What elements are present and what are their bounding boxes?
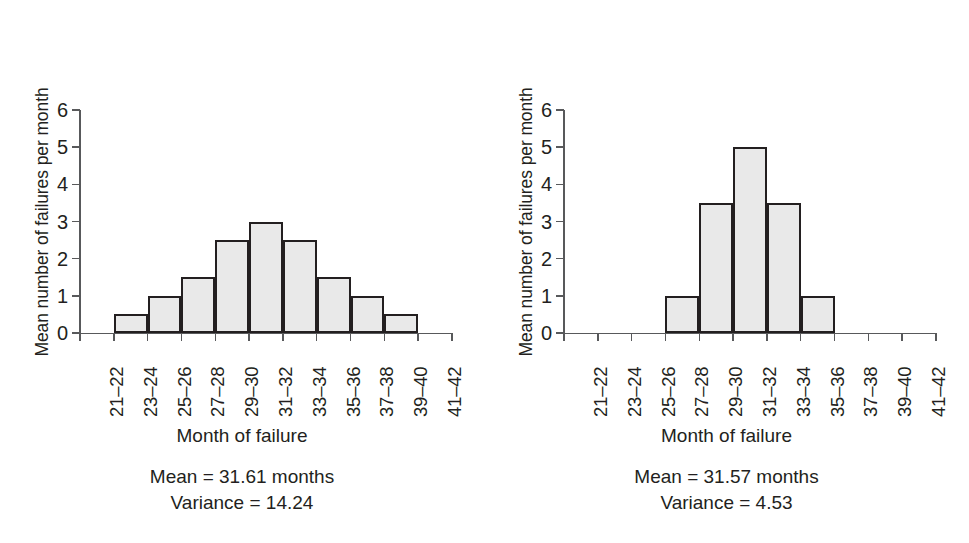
x-label-text: 27–28 bbox=[208, 367, 228, 417]
bar-31-32-right bbox=[733, 147, 767, 333]
y-axis-title-right: Mean number of failures per month bbox=[512, 7, 540, 437]
caption-mean-left: Mean = 31.61 months bbox=[0, 464, 484, 490]
x-tick-5-right bbox=[732, 333, 734, 341]
x-tick-3-right bbox=[665, 333, 667, 341]
y-tick-label-6-left: 6 bbox=[57, 100, 68, 120]
y-tick-label-4-right: 4 bbox=[541, 174, 552, 194]
x-label-text: 23–24 bbox=[141, 367, 161, 417]
bar-29-30-left bbox=[215, 240, 249, 333]
bar-35-36-right bbox=[801, 296, 835, 333]
x-tick-7-left bbox=[316, 333, 318, 341]
y-tick-label-0-right: 0 bbox=[541, 323, 552, 343]
bar-23-24-left bbox=[114, 314, 148, 333]
y-tick-label-5-right: 5 bbox=[541, 137, 552, 157]
x-label-text: 35–36 bbox=[344, 367, 364, 417]
caption-right: Mean = 31.57 months Variance = 4.53 bbox=[484, 464, 969, 516]
x-label-text: 23–24 bbox=[625, 367, 645, 417]
bar-27-28-left bbox=[181, 277, 215, 333]
x-tick-5-left bbox=[248, 333, 250, 341]
y-tick-label-5-left: 5 bbox=[57, 137, 68, 157]
panel-right-histogram: Mean number of failures per month 21–222… bbox=[484, 0, 969, 543]
x-tick-2-right bbox=[631, 333, 633, 341]
x-tick-labels-left: 21–2223–2425–2627–2829–3031–3233–3435–36… bbox=[80, 333, 452, 419]
x-tick-10-right bbox=[901, 333, 903, 341]
bars-right bbox=[564, 110, 936, 333]
x-label-text: 21–22 bbox=[107, 367, 127, 417]
caption-left: Mean = 31.61 months Variance = 14.24 bbox=[0, 464, 484, 516]
panel-left-histogram: Mean number of failures per month 21–222… bbox=[0, 0, 484, 543]
y-tick-2-right bbox=[556, 258, 564, 260]
y-tick-6-right bbox=[556, 109, 564, 111]
bar-25-26-left bbox=[148, 296, 182, 333]
x-label-text: 37–38 bbox=[377, 367, 397, 417]
bar-37-38-left bbox=[351, 296, 385, 333]
caption-mean-right: Mean = 31.57 months bbox=[484, 464, 969, 490]
y-tick-2-left bbox=[72, 258, 80, 260]
x-label-text: 37–38 bbox=[861, 367, 881, 417]
y-tick-label-1-left: 1 bbox=[57, 286, 68, 306]
x-tick-2-left bbox=[147, 333, 149, 341]
x-tick-6-right bbox=[766, 333, 768, 341]
y-tick-1-left bbox=[72, 295, 80, 297]
figure-two-histograms: Mean number of failures per month 21–222… bbox=[0, 0, 969, 543]
bar-29-30-right bbox=[699, 203, 733, 333]
bar-35-36-left bbox=[317, 277, 351, 333]
x-tick-4-left bbox=[215, 333, 217, 341]
x-axis-title-left: Month of failure bbox=[0, 424, 484, 448]
y-tick-label-3-left: 3 bbox=[57, 212, 68, 232]
bar-27-28-right bbox=[665, 296, 699, 333]
x-tick-1-right bbox=[597, 333, 599, 341]
bar-33-34-right bbox=[767, 203, 801, 333]
y-tick-label-4-left: 4 bbox=[57, 174, 68, 194]
x-tick-10-left bbox=[417, 333, 419, 341]
x-label-text: 39–40 bbox=[895, 367, 915, 417]
y-tick-3-left bbox=[72, 221, 80, 223]
y-tick-label-3-right: 3 bbox=[541, 212, 552, 232]
x-tick-labels-right: 21–2223–2425–2627–2829–3031–3233–3435–36… bbox=[564, 333, 936, 419]
x-label-text: 39–40 bbox=[411, 367, 431, 417]
y-tick-label-0-left: 0 bbox=[57, 323, 68, 343]
x-label-text: 29–30 bbox=[242, 367, 262, 417]
y-tick-label-1-right: 1 bbox=[541, 286, 552, 306]
plot-area-left: 21–2223–2425–2627–2829–3031–3233–3435–36… bbox=[80, 110, 452, 333]
caption-variance-left: Variance = 14.24 bbox=[0, 490, 484, 516]
x-label-text: 31–32 bbox=[760, 367, 780, 417]
x-tick-3-left bbox=[181, 333, 183, 341]
y-tick-1-right bbox=[556, 295, 564, 297]
y-tick-4-right bbox=[556, 184, 564, 186]
x-tick-6-left bbox=[282, 333, 284, 341]
y-tick-label-2-right: 2 bbox=[541, 249, 552, 269]
x-label-text: 35–36 bbox=[828, 367, 848, 417]
y-tick-label-2-left: 2 bbox=[57, 249, 68, 269]
x-tick-11-right bbox=[935, 333, 937, 341]
x-label-text: 41–42 bbox=[929, 367, 949, 417]
y-tick-5-right bbox=[556, 146, 564, 148]
y-axis-title-left: Mean number of failures per month bbox=[28, 7, 56, 437]
x-label-text: 41–42 bbox=[445, 367, 465, 417]
x-label-text: 31–32 bbox=[276, 367, 296, 417]
x-tick-0-right bbox=[563, 333, 565, 341]
x-label-text: 29–30 bbox=[726, 367, 746, 417]
caption-variance-right: Variance = 4.53 bbox=[484, 490, 969, 516]
x-axis-title-right: Month of failure bbox=[484, 424, 969, 448]
x-label-text: 33–34 bbox=[794, 367, 814, 417]
x-tick-9-left bbox=[384, 333, 386, 341]
bar-39-40-left bbox=[384, 314, 418, 333]
x-label-text: 25–26 bbox=[175, 367, 195, 417]
y-tick-3-right bbox=[556, 221, 564, 223]
x-label-text: 25–26 bbox=[659, 367, 679, 417]
x-tick-1-left bbox=[113, 333, 115, 341]
bar-33-34-left bbox=[283, 240, 317, 333]
x-tick-9-right bbox=[868, 333, 870, 341]
y-tick-6-left bbox=[72, 109, 80, 111]
x-label-text: 33–34 bbox=[310, 367, 330, 417]
y-tick-4-left bbox=[72, 184, 80, 186]
x-tick-7-right bbox=[800, 333, 802, 341]
x-tick-8-left bbox=[350, 333, 352, 341]
y-tick-5-left bbox=[72, 146, 80, 148]
x-tick-0-left bbox=[79, 333, 81, 341]
plot-area-right: 21–2223–2425–2627–2829–3031–3233–3435–36… bbox=[564, 110, 936, 333]
bar-31-32-left bbox=[249, 222, 283, 334]
x-tick-8-right bbox=[834, 333, 836, 341]
x-tick-11-left bbox=[451, 333, 453, 341]
